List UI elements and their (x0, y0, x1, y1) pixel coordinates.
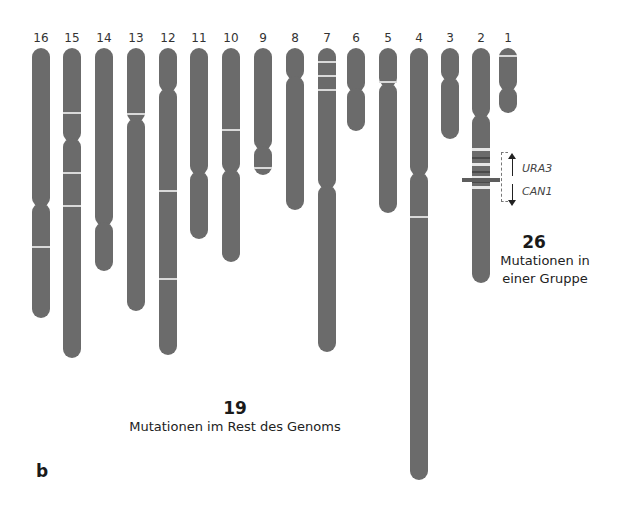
cluster-marker-line (462, 178, 500, 182)
mutation-band (499, 55, 517, 57)
chromosome-long-arm (254, 146, 272, 175)
chromosome-short-arm (190, 48, 208, 175)
chromosome-short-arm (127, 48, 145, 122)
chromosome-short-arm (63, 48, 81, 142)
chromosome-long-arm (159, 88, 177, 355)
mutation-band (63, 205, 81, 207)
chromosome-long-arm (190, 171, 208, 239)
rest-mutation-count: 19 (210, 398, 260, 418)
chromosome-long-arm (472, 114, 490, 283)
cluster-mutation-count: 26 (510, 232, 558, 252)
chromosome-label: 9 (248, 31, 278, 45)
chromosome-long-arm (222, 169, 240, 262)
chromosome-label: 16 (26, 31, 56, 45)
chromosome-short-arm (222, 48, 240, 173)
chromosome-long-arm (127, 118, 145, 311)
chromosome-label: 1 (493, 31, 523, 45)
mutation-band (127, 113, 145, 115)
mutation-band (159, 190, 177, 192)
chromosome-short-arm (410, 48, 428, 176)
chromosome-long-arm (286, 76, 304, 210)
mutation-band (222, 129, 240, 131)
mutation-band (159, 278, 177, 280)
can1-arrowhead-icon (508, 200, 516, 206)
chromosome-long-arm (379, 83, 397, 213)
cluster-caption-line2: einer Gruppe (490, 270, 600, 287)
chromosome-label: 6 (341, 31, 371, 45)
chromosome-label: 8 (280, 31, 310, 45)
chromosome-short-arm (254, 48, 272, 150)
chromosome-label: 11 (184, 31, 214, 45)
chromosome-long-arm (318, 185, 336, 352)
ura3-arrowhead-icon (508, 153, 516, 159)
chromosome-short-arm (32, 48, 50, 207)
chromosome-long-arm (63, 138, 81, 358)
chromosome-label: 13 (121, 31, 151, 45)
rest-caption: Mutationen im Rest des Genoms (100, 418, 370, 435)
chromosome-label: 14 (89, 31, 119, 45)
chromosome-long-arm (32, 203, 50, 318)
chromosome-short-arm (347, 48, 365, 92)
chromosome-label: 2 (466, 31, 496, 45)
panel-label: b (36, 461, 48, 481)
mutation-band (318, 61, 336, 63)
chromosome-long-arm (410, 172, 428, 480)
mutation-band (318, 75, 336, 77)
cluster-bracket (501, 152, 508, 202)
chromosome-label: 12 (153, 31, 183, 45)
gene-label-can1: CAN1 (522, 185, 552, 198)
chromosome-label: 3 (435, 31, 465, 45)
mutation-band (63, 172, 81, 174)
mutation-band (63, 112, 81, 114)
mutation-band (472, 171, 490, 173)
chromosome-label: 15 (57, 31, 87, 45)
mutation-band (472, 163, 490, 166)
chromosome-long-arm (347, 88, 365, 131)
chromosome-label: 10 (216, 31, 246, 45)
chromosome-label: 5 (373, 31, 403, 45)
mutation-band (379, 81, 397, 83)
chromosome-label: 7 (312, 31, 342, 45)
mutation-band (318, 89, 336, 91)
mutation-band (254, 167, 272, 169)
mutation-band (472, 186, 490, 189)
cluster-caption-line1: Mutationen in (490, 252, 600, 269)
chromosome-short-arm (159, 48, 177, 92)
chromosome-short-arm (95, 48, 113, 226)
mutation-band (410, 216, 428, 218)
chromosome-short-arm (472, 48, 490, 118)
chromosome-label: 4 (404, 31, 434, 45)
mutation-band (472, 148, 490, 151)
chromosome-long-arm (95, 222, 113, 271)
gene-label-ura3: URA3 (522, 162, 552, 175)
mutation-band (472, 157, 490, 159)
chromosome-short-arm (318, 48, 336, 189)
ura3-arrow-up-icon (512, 156, 513, 176)
chromosome-long-arm (499, 87, 517, 113)
chromosome-long-arm (441, 77, 459, 139)
mutation-band (32, 246, 50, 248)
